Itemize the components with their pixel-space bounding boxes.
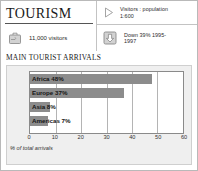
bar-row: Africa 48% xyxy=(30,74,183,84)
bar-row: Europe 37% xyxy=(30,88,183,98)
section-heading: MAIN TOURIST ARRIVALS xyxy=(1,51,197,64)
x-tick: 60 xyxy=(181,134,187,140)
kpi-visitors-ratio-text: Visitors : population 1:600 xyxy=(120,6,168,19)
bar-label: Americas 7% xyxy=(32,116,71,126)
x-axis-caption: % of total arrivals xyxy=(10,145,53,151)
kpi-ratio-line2: 1:600 xyxy=(120,13,168,19)
section-heading-label: MAIN TOURIST ARRIVALS xyxy=(6,53,101,62)
kpi-visitors-ratio: Visitors : population 1:600 xyxy=(96,1,197,25)
bar-row: Americas 7% xyxy=(30,116,183,126)
chart-plot-area: Africa 48% Europe 37% Asia 8% Americas 7… xyxy=(29,71,184,134)
suitcase-icon xyxy=(5,29,24,48)
tourist-arrivals-chart: Africa 48% Europe 37% Asia 8% Americas 7… xyxy=(6,65,192,165)
trend-line1: Down 39% 1995- xyxy=(124,32,166,38)
x-tick: 0 xyxy=(27,134,30,140)
bar-row: Asia 8% xyxy=(30,102,183,112)
trend-line2: 1997 xyxy=(124,38,166,44)
stat-visitor-trend-text: Down 39% 1995- 1997 xyxy=(124,32,166,45)
bar-label: Africa 48% xyxy=(32,74,64,84)
stats-row: 11,000 visitors Down 39% 1995- 1997 xyxy=(1,25,197,51)
tourism-info-card: TOURISM Visitors : population 1:600 xyxy=(0,0,198,171)
x-tick: 50 xyxy=(155,134,161,140)
stat-visitor-count: 11,000 visitors xyxy=(1,25,96,51)
header-row: TOURISM Visitors : population 1:600 xyxy=(1,1,197,25)
stat-visitor-count-text: 11,000 visitors xyxy=(29,35,67,42)
x-tick: 40 xyxy=(129,134,135,140)
bar-label: Asia 8% xyxy=(32,102,56,112)
play-triangle-icon xyxy=(100,5,116,21)
title-cell: TOURISM xyxy=(1,1,96,25)
bar-label: Europe 37% xyxy=(32,88,67,98)
stat-visitor-trend: Down 39% 1995- 1997 xyxy=(96,25,197,51)
title-underline xyxy=(5,23,93,24)
x-tick: 30 xyxy=(103,134,109,140)
x-tick: 20 xyxy=(78,134,84,140)
page-title: TOURISM xyxy=(6,7,72,21)
kpi-ratio-line1: Visitors : population xyxy=(120,6,168,12)
chart-bars: Africa 48% Europe 37% Asia 8% Americas 7… xyxy=(30,72,183,133)
down-arrow-box-icon xyxy=(100,29,119,48)
chart-x-axis: 0 10 20 30 40 50 60 xyxy=(29,134,184,144)
x-tick: 10 xyxy=(52,134,58,140)
